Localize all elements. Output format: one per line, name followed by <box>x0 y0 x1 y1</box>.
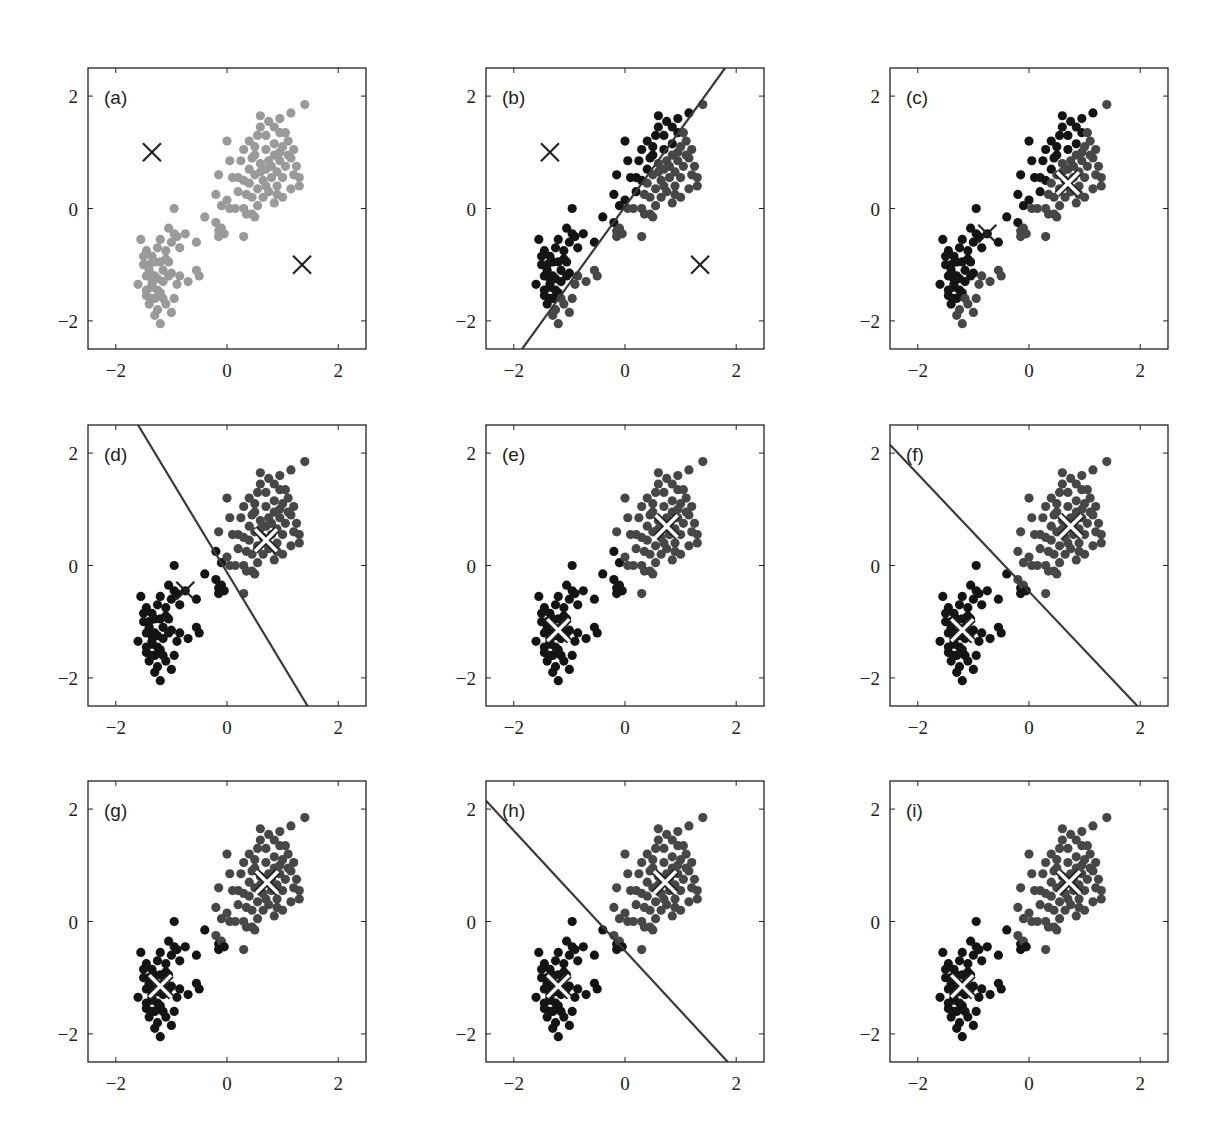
data-point <box>278 173 287 182</box>
data-point <box>272 894 281 903</box>
data-point <box>1083 162 1092 171</box>
data-point <box>200 925 209 934</box>
data-point <box>1077 827 1086 836</box>
data-point <box>164 271 173 280</box>
y-tick-label: 2 <box>69 86 79 107</box>
data-point <box>222 493 231 502</box>
x-tick-label: 2 <box>731 1073 741 1094</box>
data-point <box>234 187 243 196</box>
data-point <box>938 948 947 957</box>
data-point <box>1094 519 1103 528</box>
data-point <box>1058 824 1067 833</box>
x-tick-label: 2 <box>1135 360 1145 381</box>
x-tick-label: −2 <box>106 717 126 738</box>
data-point <box>1027 513 1036 522</box>
data-point <box>551 274 560 283</box>
panel-label: (d) <box>104 444 127 465</box>
data-point <box>682 864 691 873</box>
data-point <box>1038 869 1047 878</box>
y-tick-label: 2 <box>467 443 477 464</box>
data-point <box>236 156 245 165</box>
data-point <box>1041 145 1050 154</box>
y-tick-label: −2 <box>456 1024 476 1045</box>
scatter-panel-d: −22002−2(d) <box>38 420 386 751</box>
data-point <box>239 945 248 954</box>
y-tick-label: 2 <box>871 799 881 820</box>
data-point <box>657 550 666 559</box>
data-point <box>958 592 967 601</box>
data-point <box>651 184 660 193</box>
data-point <box>281 841 290 850</box>
data-point <box>573 600 582 609</box>
data-point <box>648 569 657 578</box>
data-point <box>1016 232 1025 241</box>
data-point <box>974 945 983 954</box>
data-point <box>684 465 693 474</box>
data-point <box>1047 179 1056 188</box>
data-point <box>1041 589 1050 598</box>
data-point <box>1036 530 1045 539</box>
data-point <box>245 849 254 858</box>
data-point <box>214 527 223 536</box>
data-point <box>256 167 265 176</box>
data-point <box>181 942 190 951</box>
data-point <box>1063 502 1072 511</box>
data-point <box>156 676 165 685</box>
data-point <box>192 238 201 247</box>
data-point <box>698 457 707 466</box>
decision-boundary-line <box>522 68 725 349</box>
data-point <box>559 246 568 255</box>
data-point <box>637 502 646 511</box>
data-point <box>272 190 281 199</box>
data-point <box>253 201 262 210</box>
data-point <box>554 319 563 328</box>
data-point <box>668 198 677 207</box>
data-point <box>239 145 248 154</box>
data-point <box>974 993 983 1002</box>
data-point <box>593 984 602 993</box>
data-point <box>676 142 685 151</box>
data-point <box>559 959 568 968</box>
data-point <box>292 875 301 884</box>
y-tick-label: 2 <box>69 799 79 820</box>
data-point <box>651 897 660 906</box>
data-point <box>690 875 699 884</box>
data-point <box>974 637 983 646</box>
data-point <box>952 668 961 677</box>
data-point <box>643 849 652 858</box>
data-point <box>568 294 577 303</box>
data-point <box>960 651 969 660</box>
data-point <box>183 990 192 999</box>
data-point <box>545 609 554 618</box>
data-point <box>977 984 986 993</box>
data-point <box>1061 906 1070 915</box>
data-point <box>250 151 259 160</box>
data-point <box>172 993 181 1002</box>
data-point <box>570 637 579 646</box>
centroid-cross-icon <box>143 143 161 161</box>
data-point <box>261 181 270 190</box>
data-point <box>559 254 568 263</box>
data-point <box>562 271 571 280</box>
data-point <box>568 561 577 570</box>
data-point <box>1088 465 1097 474</box>
data-point <box>1063 488 1072 497</box>
data-point <box>1016 170 1025 179</box>
data-point <box>289 170 298 179</box>
data-point <box>676 855 685 864</box>
data-point <box>693 181 702 190</box>
x-tick-label: 0 <box>222 360 232 381</box>
data-point <box>172 232 181 241</box>
y-tick-label: −2 <box>860 1024 880 1045</box>
data-point <box>562 224 571 233</box>
data-point <box>670 538 679 547</box>
x-tick-label: 2 <box>333 360 343 381</box>
data-point <box>1013 190 1022 199</box>
data-point <box>1091 883 1100 892</box>
data-point <box>256 468 265 477</box>
data-point <box>253 914 262 923</box>
data-point <box>1077 471 1086 480</box>
data-point <box>573 984 582 993</box>
data-point <box>935 637 944 646</box>
data-point <box>1038 156 1047 165</box>
